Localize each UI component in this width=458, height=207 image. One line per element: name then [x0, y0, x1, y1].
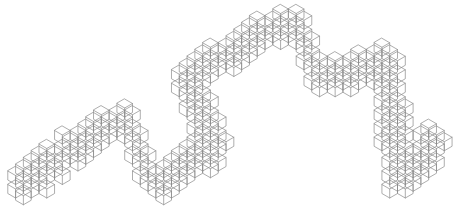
cube-wireframe-group	[8, 5, 452, 205]
isometric-cube-wave-graphic	[0, 0, 458, 207]
illustration-canvas	[0, 0, 458, 207]
